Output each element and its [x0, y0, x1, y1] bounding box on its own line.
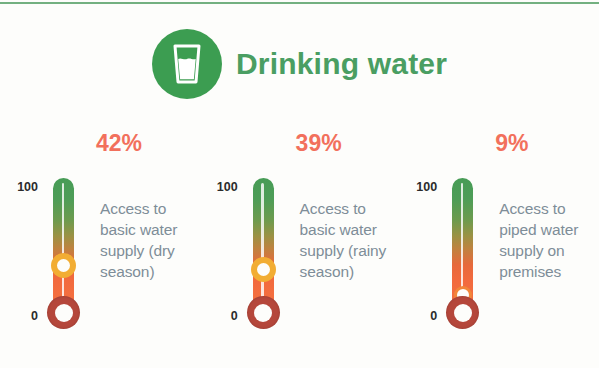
- scale-max-label: 100: [202, 181, 238, 194]
- metric-caption: Access to basic water supply (dry season…: [100, 198, 204, 282]
- metric-caption: Access to piped water supply on premises: [499, 198, 599, 282]
- thermometer-gauge: [244, 178, 292, 350]
- metric-columns: 42% 100 0 Access to basic water supply (…: [0, 120, 599, 356]
- metric-caption: Access to basic water supply (rainy seas…: [300, 198, 404, 282]
- drinking-glass-icon: [152, 29, 222, 99]
- gauge-bulb-hole: [55, 304, 73, 322]
- metric-column-piped-water-premises: 9% 100 0 Access to piped water supply on…: [399, 120, 599, 356]
- gauge-bulb-hole: [254, 304, 272, 322]
- metric-column-basic-water-dry: 42% 100 0 Access to basic water supply (…: [0, 120, 200, 356]
- gauge-bulb-hole: [454, 304, 472, 322]
- gauge-value-marker-hole: [257, 263, 270, 276]
- gauge-value-marker-hole: [57, 259, 70, 272]
- gauge-highlight: [62, 183, 65, 303]
- drinking-water-infographic: Drinking water 42% 100 0 Access to basic…: [0, 0, 599, 368]
- gauge-highlight: [261, 183, 264, 303]
- gauge-highlight: [461, 183, 464, 303]
- percent-value: 9%: [495, 132, 528, 155]
- metric-column-basic-water-rainy: 39% 100 0 Access to basic water supply (…: [200, 120, 400, 356]
- percent-value: 39%: [296, 132, 342, 155]
- thermometer-gauge: [443, 178, 491, 350]
- scale-min-label: 0: [401, 310, 437, 323]
- thermometer-gauge: [44, 178, 92, 350]
- header: Drinking water: [0, 26, 599, 102]
- scale-max-label: 100: [401, 181, 437, 194]
- page-title: Drinking water: [236, 49, 447, 79]
- top-divider: [0, 2, 599, 4]
- percent-value: 42%: [96, 132, 142, 155]
- scale-max-label: 100: [2, 181, 38, 194]
- scale-min-label: 0: [202, 310, 238, 323]
- scale-min-label: 0: [2, 310, 38, 323]
